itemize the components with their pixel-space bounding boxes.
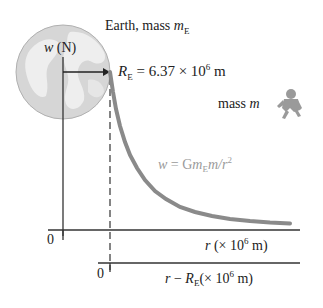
weight-curve: [110, 72, 290, 224]
earth-mass-label: Earth, mass mE: [105, 18, 189, 36]
astronaut-icon: [277, 89, 302, 119]
weight-formula: w = GmEm/r2: [158, 155, 232, 174]
r-axis-label: r (× 106 m): [205, 236, 268, 254]
w-axis-label: w (N): [44, 40, 76, 56]
earth-radius-label: RE = 6.37 × 106 m: [118, 62, 226, 82]
r-axis-zero: 0: [47, 232, 54, 248]
r-minus-re-axis-label: r − RE(× 106 m): [165, 269, 253, 288]
mass-m-label: mass m: [218, 96, 260, 112]
r-minus-re-axis-zero: 0: [97, 266, 104, 282]
